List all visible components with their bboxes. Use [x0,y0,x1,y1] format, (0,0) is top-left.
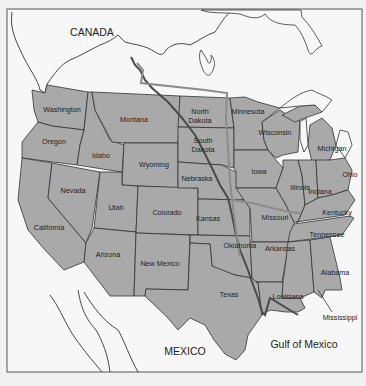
label-north-dakota-2: Dakota [189,116,212,125]
label-oklahoma: Oklahoma [224,241,257,250]
label-indiana: Indiana [308,187,332,196]
label-california: California [34,223,64,232]
label-new-mexico: New Mexico [140,259,179,268]
label-arkansas: Arkansas [265,244,295,253]
label-wisconsin: Wisconsin [259,128,292,137]
label-kentucky: Kentucky [322,208,352,217]
label-gulf: Gulf of Mexico [270,338,337,350]
label-south-dakota-1: South [194,136,213,145]
label-wyoming: Wyoming [139,160,169,169]
label-texas: Texas [220,290,239,299]
label-michigan: Michigan [318,144,347,153]
label-minnesota: Minnesota [231,107,264,116]
label-north-dakota-1: North [191,107,209,116]
label-montana: Montana [120,115,148,124]
label-alabama: Alabama [321,268,349,277]
label-missouri: Missouri [262,213,289,222]
label-louisiana: Louisiana [273,292,304,301]
label-kansas: Kansas [196,214,220,223]
label-colorado: Colorado [152,208,181,217]
label-ohio: Ohio [342,170,357,179]
label-mississippi: Mississippi [323,313,358,322]
label-washington: Washington [43,105,81,114]
label-iowa: Iowa [251,167,266,176]
label-south-dakota-2: Dakota [192,145,215,154]
label-oregon: Oregon [42,137,66,146]
label-mexico: MEXICO [164,345,205,357]
label-arizona: Arizona [96,250,120,259]
pipeline-map: CANADA MEXICO Gulf of Mexico Washington … [0,0,366,386]
label-utah: Utah [108,203,123,212]
label-tennessee: Tennessee [310,230,345,239]
label-canada: CANADA [70,26,114,38]
label-nevada: Nevada [61,186,86,195]
label-idaho: Idaho [92,151,110,160]
label-nebraska: Nebraska [182,174,213,183]
